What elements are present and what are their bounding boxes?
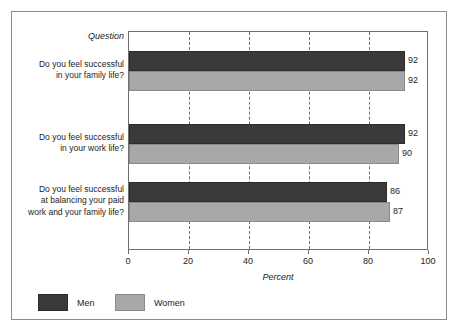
bar-women-group2 — [129, 144, 399, 164]
x-tick-label-60: 60 — [303, 256, 313, 266]
x-tick-label-100: 100 — [420, 256, 435, 266]
category-label-line: Do you feel successful — [12, 184, 124, 196]
bar-value-men-group3: 86 — [390, 187, 400, 196]
x-tick-mark-80 — [368, 250, 369, 254]
category-label-line: at balancing your paid — [12, 195, 124, 207]
bar-women-group1 — [129, 71, 405, 91]
question-column-header: Question — [12, 31, 124, 41]
bar-men-group1 — [129, 51, 405, 71]
legend-swatch-men — [38, 294, 68, 311]
legend-label-women: Women — [154, 298, 185, 308]
category-label-group3: Do you feel successfulat balancing your … — [12, 184, 124, 219]
bar-value-women-group3: 87 — [393, 207, 403, 216]
bar-value-women-group2: 90 — [402, 149, 412, 158]
x-tick-mark-40 — [248, 250, 249, 254]
category-label-line: work and your family life? — [12, 207, 124, 219]
x-tick-label-80: 80 — [363, 256, 373, 266]
category-label-line: in your family life? — [12, 70, 124, 82]
x-tick-label-40: 40 — [243, 256, 253, 266]
x-axis-title: Percent — [128, 272, 428, 282]
x-tick-mark-0 — [128, 250, 129, 254]
legend-swatch-women — [115, 294, 145, 311]
bar-men-group3 — [129, 182, 387, 202]
category-label-line: in your work life? — [12, 143, 124, 155]
bar-men-group2 — [129, 124, 405, 144]
x-tick-mark-60 — [308, 250, 309, 254]
bar-women-group3 — [129, 202, 390, 222]
x-tick-mark-20 — [188, 250, 189, 254]
x-tick-label-20: 20 — [183, 256, 193, 266]
bar-value-men-group1: 92 — [408, 56, 418, 65]
plot-area — [128, 31, 428, 250]
legend-item-men[interactable]: Men — [38, 294, 95, 311]
x-tick-label-0: 0 — [125, 256, 130, 266]
category-label-group1: Do you feel successfulin your family lif… — [12, 59, 124, 82]
legend-label-men: Men — [77, 298, 95, 308]
category-label-line: Do you feel successful — [12, 59, 124, 71]
bar-value-women-group1: 92 — [408, 76, 418, 85]
chart-figure: Question Do you feel successfulin your f… — [0, 0, 455, 332]
category-label-line: Do you feel successful — [12, 132, 124, 144]
x-tick-mark-100 — [428, 250, 429, 254]
category-label-group2: Do you feel successfulin your work life? — [12, 132, 124, 155]
bar-value-men-group2: 92 — [408, 129, 418, 138]
legend-item-women[interactable]: Women — [115, 294, 185, 311]
